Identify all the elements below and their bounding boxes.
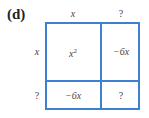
grid-horizontal-divider	[45, 80, 140, 82]
cell-top-right: −6x	[103, 46, 139, 58]
cell-bottom-right: ?	[103, 90, 139, 102]
cell-top-left-exponent: 2	[73, 47, 77, 55]
part-label: (d)	[7, 6, 25, 23]
cell-top-left: x2	[56, 45, 90, 60]
row-header-1: ?	[30, 90, 44, 102]
column-header-1: ?	[111, 8, 131, 20]
column-header-0: x	[63, 8, 83, 20]
row-header-0: x	[30, 46, 44, 58]
cell-bottom-left: −6x	[55, 90, 91, 102]
grid-vertical-divider	[100, 22, 102, 110]
